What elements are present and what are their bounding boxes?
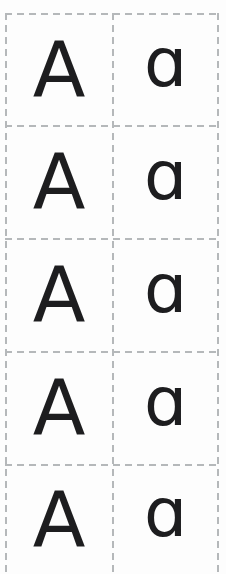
flashcard-sheet: A ɑ A ɑ A ɑ A ɑ A — [0, 0, 226, 574]
flashcard-lowercase-a: ɑ — [113, 351, 218, 464]
flashcard-row: A ɑ — [5, 464, 218, 574]
flashcard-uppercase-a: A — [5, 464, 113, 574]
lowercase-letter: ɑ — [144, 29, 187, 97]
lowercase-letter: ɑ — [144, 479, 187, 547]
flashcard-row: A ɑ — [5, 351, 218, 464]
flashcard-uppercase-a: A — [5, 125, 113, 238]
uppercase-letter: A — [33, 143, 86, 220]
flashcard-uppercase-a: A — [5, 238, 113, 351]
lowercase-letter: ɑ — [144, 255, 187, 323]
flashcard-row: A ɑ — [5, 238, 218, 351]
flashcard-lowercase-a: ɑ — [113, 238, 218, 351]
uppercase-letter: A — [33, 481, 86, 558]
uppercase-letter: A — [33, 256, 86, 333]
uppercase-letter: A — [33, 31, 86, 108]
flashcard-lowercase-a: ɑ — [113, 125, 218, 238]
flashcard-uppercase-a: A — [5, 13, 113, 125]
flashcard-row: A ɑ — [5, 13, 218, 125]
uppercase-letter: A — [33, 369, 86, 446]
flashcard-row: A ɑ — [5, 125, 218, 238]
lowercase-letter: ɑ — [144, 142, 187, 210]
flashcard-lowercase-a: ɑ — [113, 464, 218, 574]
flashcard-uppercase-a: A — [5, 351, 113, 464]
lowercase-letter: ɑ — [144, 368, 187, 436]
flashcard-lowercase-a: ɑ — [113, 13, 218, 125]
